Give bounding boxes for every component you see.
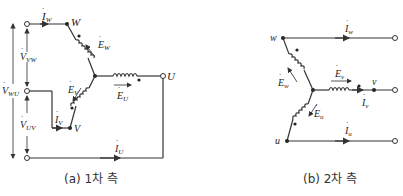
polarity-dot-W xyxy=(77,34,80,37)
svg-text:·: · xyxy=(279,70,281,79)
coil-u xyxy=(293,104,308,119)
svg-text:·: · xyxy=(69,77,71,86)
svg-text:·: · xyxy=(363,90,365,99)
svg-text:·: · xyxy=(315,101,317,110)
terminal-w-open xyxy=(25,22,30,27)
svg-text:·: · xyxy=(21,112,23,121)
terminal-u-out xyxy=(393,139,398,144)
svg-text:·: · xyxy=(56,107,58,116)
terminal-label-v: v xyxy=(372,76,377,87)
terminal-U xyxy=(161,74,166,79)
polarity-dot-w xyxy=(295,48,298,51)
polarity-dot-V xyxy=(70,106,73,109)
coil-v xyxy=(329,88,349,91)
polarity-dot-u xyxy=(293,122,296,125)
terminal-label-W: W xyxy=(71,16,81,28)
coil-U xyxy=(113,74,137,77)
terminal-label-u: u xyxy=(275,135,280,146)
svg-text:·: · xyxy=(116,136,118,145)
terminal-label-U: U xyxy=(167,70,176,82)
svg-text:·: · xyxy=(346,16,348,25)
svg-text:·: · xyxy=(336,61,338,70)
coil-W xyxy=(76,40,94,58)
svg-text:·: · xyxy=(99,32,101,41)
terminal-label-V: V xyxy=(74,123,82,134)
terminal-label-w: w xyxy=(270,32,277,43)
svg-text:·: · xyxy=(21,44,23,53)
primary-circuit xyxy=(13,22,166,161)
terminal-v-out xyxy=(393,88,398,93)
polarity-dot-U xyxy=(137,78,140,81)
svg-text:·: · xyxy=(346,118,348,127)
svg-text:·: · xyxy=(42,4,44,13)
secondary-circuit xyxy=(281,36,398,144)
terminal-u-open xyxy=(25,156,30,161)
coil-w xyxy=(289,54,304,69)
terminal-v-open xyxy=(25,89,30,94)
node-v xyxy=(372,88,376,92)
terminal-w-out xyxy=(393,36,398,41)
caption-primary: (a) 1차 측 xyxy=(64,172,118,186)
polarity-dot-v xyxy=(357,84,360,87)
caption-secondary: (b) 2차 측 xyxy=(303,172,357,186)
svg-text:·: · xyxy=(3,78,5,87)
svg-text:·: · xyxy=(118,83,120,92)
